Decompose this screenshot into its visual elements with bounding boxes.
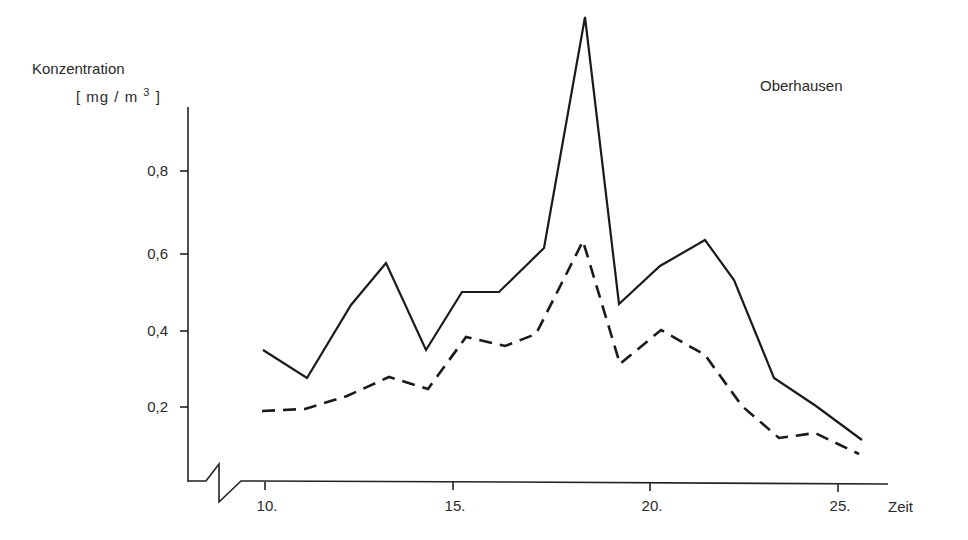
x-tick-label: 20. bbox=[632, 497, 672, 514]
y-unit-superscript: 3 bbox=[143, 86, 150, 98]
x-tick-label: 15. bbox=[435, 497, 475, 514]
y-axis-title: Konzentration bbox=[32, 60, 125, 77]
x-axis bbox=[188, 464, 888, 502]
y-tick-label: 0,8 bbox=[108, 162, 168, 179]
axis-break-icon bbox=[188, 464, 888, 502]
y-unit-text: [ mg / m bbox=[76, 88, 138, 105]
location-annotation: Oberhausen bbox=[760, 77, 843, 94]
y-tick-label: 0,6 bbox=[108, 245, 168, 262]
y-axis-unit: [ mg / m 3 ] bbox=[76, 86, 161, 105]
y-axis bbox=[180, 107, 188, 482]
y-unit-close: ] bbox=[156, 88, 161, 105]
y-tick-label: 0,2 bbox=[108, 398, 168, 415]
x-axis-title: Zeit bbox=[888, 498, 913, 515]
y-tick-label: 0,4 bbox=[108, 322, 168, 339]
series-dashed-line bbox=[262, 241, 859, 454]
x-tick-label: 25. bbox=[820, 497, 860, 514]
x-tick-label: 10. bbox=[247, 497, 287, 514]
